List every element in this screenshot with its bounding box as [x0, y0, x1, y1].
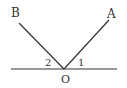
point-a-label: A [106, 7, 116, 21]
ray-oa [64, 20, 109, 69]
angle-diagram: B A O 2 1 [0, 0, 127, 88]
point-o-label: O [61, 73, 70, 86]
point-b-label: B [11, 6, 20, 20]
angle-2-label: 2 [45, 57, 51, 68]
ray-ob [19, 23, 64, 69]
angle-1-label: 1 [78, 57, 84, 68]
